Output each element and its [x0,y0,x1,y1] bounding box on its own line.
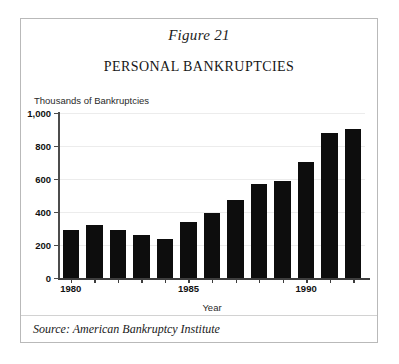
x-tick-mark [330,279,331,283]
x-tick-mark [118,279,119,283]
x-axis-label: Year [59,302,365,313]
y-tick-mark [54,113,59,114]
chart-title: PERSONAL BANKRUPTCIES [21,59,377,75]
y-tick-mark [54,179,59,180]
source-note: Source: American Bankruptcy Institute [33,322,220,337]
x-tick-mark [259,279,260,283]
figure-frame: Figure 21 PERSONAL BANKRUPTCIES Thousand… [20,18,378,343]
y-tick-label: 800 [35,141,51,152]
x-tick-mark [212,279,213,283]
bar [157,239,173,278]
value-axis-line [58,112,60,279]
y-tick-label: 200 [35,240,51,251]
x-tick-mark [94,279,95,283]
x-tick-mark [283,279,284,283]
source-divider [21,315,377,316]
bar [274,181,290,278]
bar [110,230,126,278]
y-tick-mark [54,245,59,246]
bar [251,184,267,278]
bar [204,213,220,278]
x-tick-mark [353,279,354,283]
bar-chart-plot-area: 02004006008001,000 198019851990 [59,113,365,278]
bar [63,230,79,278]
x-tick-label: 1980 [60,283,81,294]
bar [227,200,243,278]
x-tick-mark [165,279,166,283]
y-tick-label: 0 [46,273,51,284]
figure-number-label: Figure 21 [21,27,377,44]
y-tick-label: 400 [35,207,51,218]
bar [345,129,361,278]
gridline [59,113,365,114]
y-axis-label: Thousands of Bankruptcies [34,95,149,106]
x-tick-label: 1990 [296,283,317,294]
y-tick-mark [54,146,59,147]
bar [180,222,196,278]
x-tick-mark [141,279,142,283]
y-tick-mark [54,212,59,213]
y-tick-label: 600 [35,174,51,185]
bar [86,225,102,278]
bar [298,162,314,278]
category-axis-line [58,278,370,280]
bar [133,235,149,278]
x-tick-mark [236,279,237,283]
gridline [59,179,365,180]
x-tick-label: 1985 [178,283,199,294]
y-tick-label: 1,000 [27,108,51,119]
plot-inner: 02004006008001,000 198019851990 [59,113,365,278]
y-tick-mark [54,278,59,279]
bar [321,133,337,278]
gridline [59,146,365,147]
